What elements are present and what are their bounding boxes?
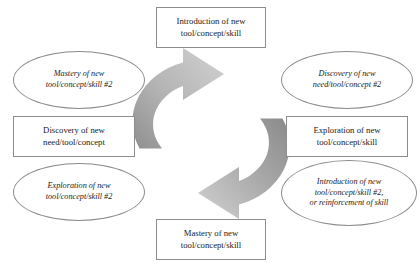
node-bottom-mastery[interactable]: Mastery of new tool/concept/skill xyxy=(156,219,266,260)
node-left-discovery[interactable]: Discovery of new need/tool/concept xyxy=(13,116,135,157)
node-top-left-label: Mastery of new tool/concept/skill #2 xyxy=(46,69,113,91)
node-top-right-discovery-2[interactable]: Discovery of new need/tool/concept #2 xyxy=(281,51,413,109)
node-right-exploration[interactable]: Exploration of new tool/concept/skill xyxy=(286,116,408,157)
node-left-label: Discovery of new need/tool/concept xyxy=(43,125,105,148)
node-top-label: Introduction of new tool/concept/skill xyxy=(177,16,246,39)
node-top-right-label: Discovery of new need/tool/concept #2 xyxy=(313,69,381,91)
descending-arrow xyxy=(198,119,290,220)
node-bottom-left-exploration-2[interactable]: Exploration of new tool/concept/skill #2 xyxy=(13,163,145,221)
node-top-left-mastery-2[interactable]: Mastery of new tool/concept/skill #2 xyxy=(13,51,145,109)
node-bottom-label: Mastery of new tool/concept/skill xyxy=(181,228,241,251)
node-right-label: Exploration of new tool/concept/skill xyxy=(313,125,380,148)
node-bottom-right-introduction-2[interactable]: Introduction of new tool/concept/skill #… xyxy=(281,160,417,226)
ascending-arrow xyxy=(132,48,224,149)
node-bottom-left-label: Exploration of new tool/concept/skill #2 xyxy=(46,181,113,203)
node-bottom-right-label: Introduction of new tool/concept/skill #… xyxy=(310,177,389,210)
node-top-introduction[interactable]: Introduction of new tool/concept/skill xyxy=(156,7,266,48)
cycle-diagram: Introduction of new tool/concept/skill D… xyxy=(0,0,420,267)
